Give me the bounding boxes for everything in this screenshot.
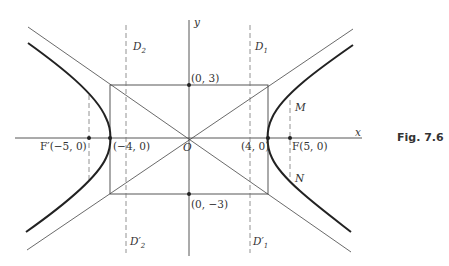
y-axis-label: y [193, 16, 201, 28]
point-focus-left [87, 136, 91, 140]
label-D1-prime: D′1 [252, 235, 268, 250]
label-0-neg3: (0, −3) [191, 198, 228, 210]
label-4-0: (4, 0) [241, 140, 269, 152]
label-focus-right: F(5, 0) [292, 140, 328, 152]
figure-caption: Fig. 7.6 [397, 131, 444, 144]
label-D2-prime: D′2 [129, 235, 146, 250]
hyperbola-left-branch [26, 43, 111, 232]
label-D1: D1 [254, 40, 268, 55]
origin-label: O [183, 141, 192, 153]
point-0-neg3 [187, 192, 191, 196]
label-D2: D2 [132, 40, 146, 55]
label-neg4-0: (−4, 0) [113, 140, 150, 152]
label-0-3: (0, 3) [191, 72, 219, 84]
point-vertex-left [108, 136, 112, 140]
label-focus-left: F′(−5, 0) [40, 140, 87, 152]
hyperbola-right-branch [268, 45, 354, 232]
hyperbola-diagram: y x O (0, 3) (0, −3) (−4, 0) (4, 0) F′(−… [0, 0, 449, 266]
label-N: N [294, 172, 305, 184]
x-axis-label: x [355, 126, 361, 138]
label-M: M [294, 101, 306, 113]
